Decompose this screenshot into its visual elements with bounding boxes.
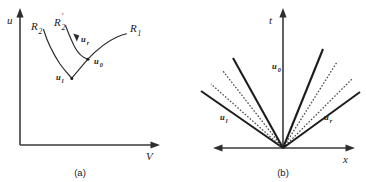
panel-b-x-axis-label: x (342, 153, 348, 165)
label-u-0-a-subscript: 0 (100, 61, 103, 68)
panel-a-y-axis-label: u (7, 14, 13, 26)
curve-r2 (44, 30, 72, 79)
panel-b-x-axis-left-arrowhead (213, 144, 223, 151)
label-u-l-a: u l (56, 72, 64, 84)
label-u-r-b-subscript: r (330, 117, 333, 124)
curve-r2-prime-arrowhead (73, 34, 79, 42)
label-u-l-b: u l (220, 112, 228, 124)
label-r1-subscript: 1 (138, 29, 142, 38)
label-u-0-a-letter: u (94, 56, 99, 66)
panel-b-caption: (b) (277, 167, 289, 178)
point-u-0-a (86, 58, 89, 61)
panel-a-x-axis (20, 141, 160, 148)
riemann-problem-figure: u V R 2 R 2 ' R 1 u l u (0, 0, 366, 182)
label-u-0-b: u 0 (272, 61, 281, 73)
label-u-l-a-letter: u (56, 72, 61, 82)
ray-left-dotted-2 (223, 71, 283, 148)
label-u-l-b-subscript: l (226, 117, 228, 124)
label-r2-prime-letter: R (53, 16, 61, 28)
label-r1-letter: R (129, 22, 137, 34)
panel-a-x-axis-arrowhead (151, 141, 161, 148)
label-u-0-b-subscript: 0 (278, 66, 281, 73)
label-r2-letter: R (30, 20, 38, 32)
label-r2-prime-mark: ' (62, 12, 64, 21)
label-u-0-a: u 0 (94, 56, 103, 68)
label-u-l-a-subscript: l (62, 77, 64, 84)
ray-left-inner-solid (233, 58, 283, 148)
label-r2: R 2 (30, 20, 43, 36)
curve-r1 (72, 34, 127, 78)
label-u-r-a-subscript: r (87, 39, 90, 46)
panel-a: u V R 2 R 2 ' R 1 u l u (7, 8, 160, 178)
figure-canvas: u V R 2 R 2 ' R 1 u l u (0, 0, 366, 182)
point-u-l-a (70, 77, 73, 80)
panel-b-t-axis-label: t (269, 14, 273, 26)
panel-b-t-axis-arrowhead (279, 8, 286, 18)
panel-b: t x u 0 u l u r (b) (201, 8, 360, 178)
label-u-r-a: u r (81, 34, 90, 46)
panel-a-y-axis (16, 8, 23, 145)
panel-a-y-axis-arrowhead (16, 8, 23, 18)
label-u-l-b-letter: u (220, 112, 225, 122)
label-u-0-b-letter: u (272, 61, 277, 71)
ray-right-dotted-1 (283, 62, 337, 148)
panel-a-caption: (a) (74, 167, 86, 178)
panel-b-x-axis-right-arrowhead (346, 144, 356, 151)
panel-b-t-axis (279, 8, 286, 148)
label-r2-subscript: 2 (39, 27, 43, 36)
ray-left-outer-solid (201, 91, 283, 148)
ray-right-dotted-2 (283, 79, 352, 148)
label-r2-prime-subscript: 2 (62, 23, 66, 32)
label-u-r-a-letter: u (81, 34, 86, 44)
label-u-r-b-letter: u (324, 112, 329, 122)
panel-a-x-axis-label: V (146, 150, 154, 162)
label-r1: R 1 (129, 22, 141, 38)
label-r2-prime: R 2 ' (53, 12, 66, 32)
